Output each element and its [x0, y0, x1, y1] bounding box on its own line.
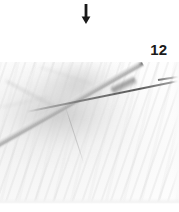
photo-plate — [0, 62, 179, 204]
plate-right-edge — [172, 62, 179, 204]
plate-bottom-edge — [0, 198, 179, 204]
figure-panel: 12 — [0, 0, 179, 212]
panel-number-label: 12 — [150, 42, 167, 57]
down-arrow-icon — [79, 4, 93, 24]
